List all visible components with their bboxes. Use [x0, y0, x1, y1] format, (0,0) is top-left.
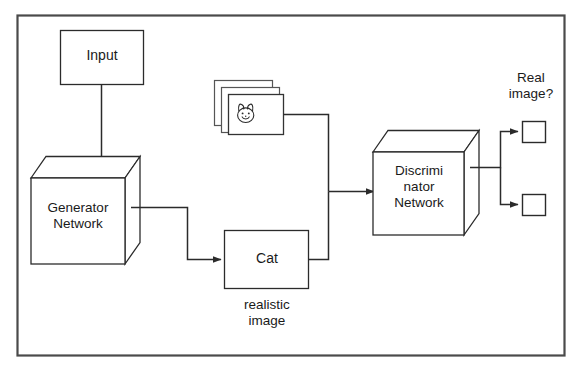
diagram-graphics: [0, 0, 581, 369]
discriminator-cube: [373, 131, 479, 236]
edge-cat-to-discriminator: [309, 192, 329, 260]
image-stack-front: [229, 95, 284, 135]
generator-cube: [31, 157, 140, 265]
input-box: [61, 31, 144, 85]
edge-generator-to-cat: [131, 208, 221, 260]
output-box-bottom: [523, 195, 546, 216]
cat-box: [225, 231, 309, 289]
output-box-top: [523, 122, 546, 143]
diagram-canvas: Input Generator Network Discrimi nator N…: [0, 0, 581, 369]
real-image-stack: [215, 81, 284, 135]
edge-stack-to-discriminator: [284, 115, 329, 192]
